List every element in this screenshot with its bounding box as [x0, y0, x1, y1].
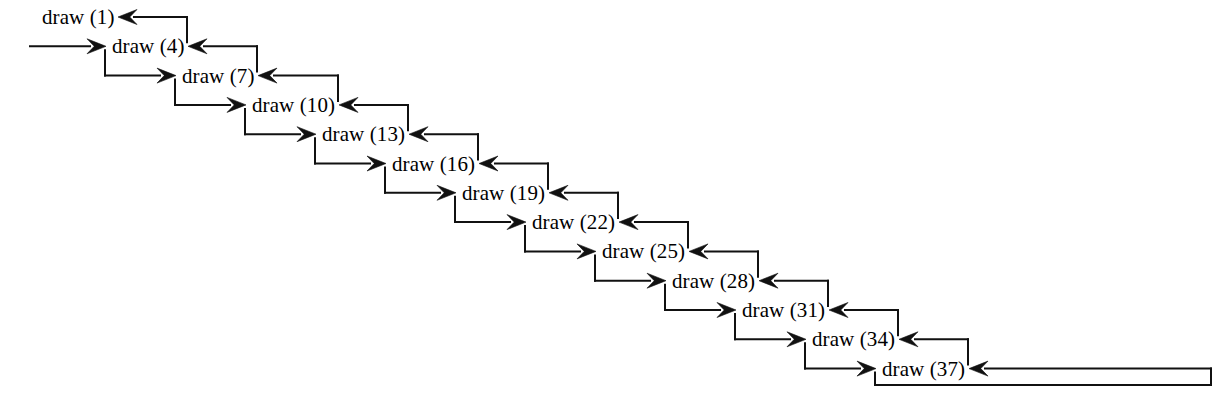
node-label-31: draw (31): [742, 300, 825, 321]
node-label-28: draw (28): [672, 270, 755, 291]
node-label-19: draw (19): [462, 182, 545, 203]
node-label-13: draw (13): [322, 124, 405, 145]
node-label-7: draw (7): [182, 65, 255, 86]
node-label-1: draw (1): [42, 7, 115, 28]
recursion-diagram: draw (1)draw (4)draw (7)draw (10)draw (1…: [0, 0, 1229, 420]
node-label-37: draw (37): [882, 358, 965, 379]
node-label-4: draw (4): [112, 36, 185, 57]
node-label-10: draw (10): [252, 94, 335, 115]
node-label-34: draw (34): [812, 329, 895, 350]
node-label-22: draw (22): [532, 212, 615, 233]
node-label-25: draw (25): [602, 241, 685, 262]
node-label-16: draw (16): [392, 153, 475, 174]
